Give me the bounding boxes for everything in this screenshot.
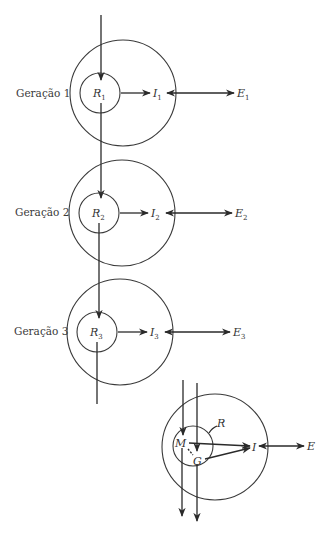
e2-label: E2 <box>234 207 248 222</box>
generation-3: Geração 3 R3 I3 E3 <box>14 279 246 404</box>
generation-3-label: Geração 3 <box>14 325 68 337</box>
generations-diagram: Geração 1 R1 I1 E1 Geração 2 R2 I2 E2 Ge… <box>0 0 328 533</box>
m-label: M <box>174 437 187 450</box>
r-label-combined: R <box>216 417 225 430</box>
i2-label: I2 <box>150 207 160 222</box>
r2-label: R2 <box>91 207 105 222</box>
r-leader-line <box>209 426 217 433</box>
combined-diagram: M G R I E <box>162 380 315 521</box>
r1-label: R1 <box>92 87 106 102</box>
generation-2: Geração 2 R2 I2 E2 <box>15 160 248 318</box>
e3-label: E3 <box>232 326 246 341</box>
i3-label: I3 <box>149 326 159 341</box>
m-to-i-arrow <box>189 443 250 446</box>
g-label: G <box>193 455 202 468</box>
e1-label: E1 <box>236 87 250 102</box>
e-label-combined: E <box>306 440 315 453</box>
i-label-combined: I <box>251 441 257 454</box>
generation-1: Geração 1 R1 I1 E1 <box>16 15 250 198</box>
generation-2-label: Geração 2 <box>15 206 69 218</box>
i1-label: I1 <box>152 87 162 102</box>
r3-label: R3 <box>89 326 103 341</box>
generation-1-label: Geração 1 <box>16 87 70 99</box>
